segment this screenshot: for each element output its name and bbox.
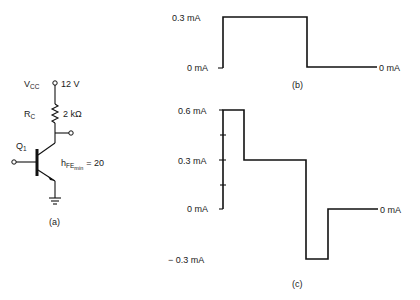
rc-label: RC bbox=[24, 109, 36, 120]
caption-c: (c) bbox=[292, 279, 303, 289]
transistor-collector-icon bbox=[38, 143, 55, 155]
vcc-label: VCC bbox=[24, 79, 40, 90]
base-terminal-icon bbox=[12, 160, 16, 164]
figure-canvas: VCC 12 V RC 2 kΩ Q1 hFEmin= 20 (a) bbox=[0, 0, 420, 300]
c-label-neg0.3ma: − 0.3 mA bbox=[168, 255, 204, 265]
resistor-icon bbox=[52, 104, 58, 123]
c-label-0ma: 0 mA bbox=[187, 204, 208, 214]
c-end-label: 0 mA bbox=[380, 205, 401, 215]
caption-b: (b) bbox=[292, 80, 303, 90]
b-label-0ma: 0 mA bbox=[187, 63, 208, 73]
b-waveform-line bbox=[223, 17, 377, 68]
caption-a: (a) bbox=[49, 217, 60, 227]
hfe-label: hFEmin= 20 bbox=[61, 158, 104, 171]
ground-icon bbox=[49, 198, 61, 204]
rc-value: 2 kΩ bbox=[63, 109, 82, 119]
waveform-panel-c: 0.6 mA 0.3 mA 0 mA − 0.3 mA 0 mA (c) bbox=[168, 106, 401, 289]
waveform-panel-b: 0.3 mA 0 mA 0 mA (b) bbox=[172, 13, 400, 90]
c-label-0.3ma: 0.3 mA bbox=[178, 156, 207, 166]
vcc-terminal-icon bbox=[53, 81, 57, 85]
output-terminal-icon bbox=[69, 131, 73, 135]
vcc-value: 12 V bbox=[61, 79, 80, 89]
c-waveform-line bbox=[223, 110, 378, 259]
b-label-0.3ma: 0.3 mA bbox=[172, 13, 201, 23]
c-label-0.6ma: 0.6 mA bbox=[178, 106, 207, 116]
circuit-panel-a: VCC 12 V RC 2 kΩ Q1 hFEmin= 20 (a) bbox=[12, 79, 104, 227]
b-end-label: 0 mA bbox=[379, 63, 400, 73]
q1-label: Q1 bbox=[16, 141, 27, 152]
